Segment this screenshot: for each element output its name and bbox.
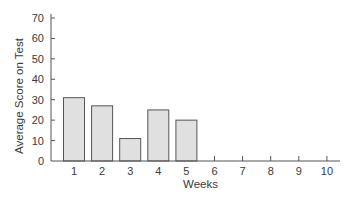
x-tick-label: 8: [268, 165, 274, 177]
y-axis-ticks: 010203040506070: [32, 12, 55, 167]
y-tick-label: 0: [38, 155, 44, 167]
x-tick-label: 10: [321, 165, 333, 177]
y-tick-label: 20: [32, 114, 44, 126]
y-tick-label: 50: [32, 53, 44, 65]
bar-chart: Average Score on Test 010203040506070 12…: [0, 0, 347, 201]
bars: [64, 98, 197, 161]
y-tick-label: 70: [32, 12, 44, 24]
bar-week-4: [148, 110, 169, 161]
y-tick-label: 30: [32, 94, 44, 106]
x-tick-label: 1: [71, 165, 77, 177]
x-tick-label: 2: [99, 165, 105, 177]
bar-week-2: [92, 106, 113, 161]
y-tick-label: 10: [32, 135, 44, 147]
bar-week-1: [64, 98, 85, 161]
y-tick-label: 40: [32, 73, 44, 85]
y-tick-label: 60: [32, 32, 44, 44]
x-tick-label: 7: [240, 165, 246, 177]
x-axis-title: Weeks: [183, 178, 218, 190]
bar-week-5: [176, 120, 197, 161]
x-tick-label: 9: [296, 165, 302, 177]
x-tick-label: 6: [211, 165, 217, 177]
x-tick-label: 5: [183, 165, 189, 177]
x-tick-label: 3: [127, 165, 133, 177]
y-axis-title-group: Average Score on Test: [13, 37, 25, 154]
x-tick-label: 4: [155, 165, 161, 177]
bar-week-3: [120, 139, 141, 161]
y-axis-title: Average Score on Test: [13, 37, 25, 154]
